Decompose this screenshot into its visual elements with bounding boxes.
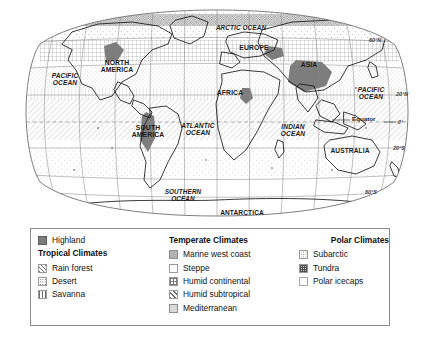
legend-label-savanna: Savanna — [52, 289, 85, 300]
subarctic-swatch-icon — [299, 250, 308, 259]
legend-label-humid-continental: Humid continental — [183, 276, 250, 287]
legend-item-mediterranean: Mediterranean — [169, 302, 294, 315]
legend-item-subarctic: Subarctic — [299, 248, 391, 261]
legend-label-subarctic: Subarctic — [313, 249, 348, 260]
map-legend: Highland Tropical Climates Rain forest D… — [30, 228, 390, 326]
legend-heading-tropical: Tropical Climates — [38, 247, 178, 260]
latitude-label-20n: 20°N — [396, 91, 408, 97]
latitude-label-20s: 20°S — [393, 145, 405, 151]
savanna-swatch-icon — [38, 290, 47, 299]
legend-label-tundra: Tundra — [313, 263, 339, 274]
legend-column-polar: Polar Climates Subarctic Tundra Polar ic… — [299, 234, 391, 288]
legend-column-tropical: Highland Tropical Climates Rain forest D… — [38, 234, 178, 302]
steppe-swatch-icon — [169, 264, 178, 273]
legend-label-steppe: Steppe — [183, 263, 210, 274]
legend-item-marine-west-coast: Marine west coast — [169, 248, 294, 261]
legend-label-desert: Desert — [52, 276, 77, 287]
legend-label-highland: Highland — [52, 235, 85, 246]
mediterranean-swatch-icon — [169, 304, 178, 313]
legend-column-temperate: Temperate Climates Marine west coast Ste… — [169, 234, 294, 315]
legend-item-humid-continental: Humid continental — [169, 275, 294, 288]
humid-continental-swatch-icon — [169, 277, 178, 286]
latitude-label-0: 0° — [398, 119, 403, 125]
humid-subtropical-swatch-icon — [169, 290, 178, 299]
tundra-swatch-icon — [299, 264, 308, 273]
latitude-label-60s: 60°S — [365, 189, 377, 195]
legend-item-desert: Desert — [38, 275, 178, 288]
legend-item-rain-forest: Rain forest — [38, 261, 178, 274]
legend-label-rain-forest: Rain forest — [52, 263, 93, 274]
legend-item-highland: Highland — [38, 234, 178, 247]
legend-heading-polar: Polar Climates — [299, 234, 391, 247]
legend-label-marine-west-coast: Marine west coast — [183, 249, 251, 260]
legend-item-tundra: Tundra — [299, 261, 391, 274]
legend-item-polar-icecaps: Polar icecaps — [299, 275, 391, 288]
legend-item-steppe: Steppe — [169, 261, 294, 274]
latitude-label-60n: 60°N — [369, 37, 381, 43]
polar-icecaps-swatch-icon — [299, 277, 308, 286]
legend-heading-temperate: Temperate Climates — [169, 234, 294, 247]
legend-item-savanna: Savanna — [38, 288, 178, 301]
legend-label-mediterranean: Mediterranean — [183, 303, 237, 314]
legend-item-humid-subtropical: Humid subtropical — [169, 288, 294, 301]
legend-label-polar-icecaps: Polar icecaps — [313, 276, 363, 287]
world-climate-map: ARCTIC OCEAN PACIFIC OCEAN ATLANTIC OCEA… — [0, 0, 435, 222]
legend-label-humid-subtropical: Humid subtropical — [183, 289, 250, 300]
highland-swatch-icon — [38, 236, 47, 245]
map-label-equator: Equator — [352, 115, 375, 122]
rain-forest-swatch-icon — [38, 264, 47, 273]
desert-swatch-icon — [38, 277, 47, 286]
marine-west-coast-swatch-icon — [169, 250, 178, 259]
